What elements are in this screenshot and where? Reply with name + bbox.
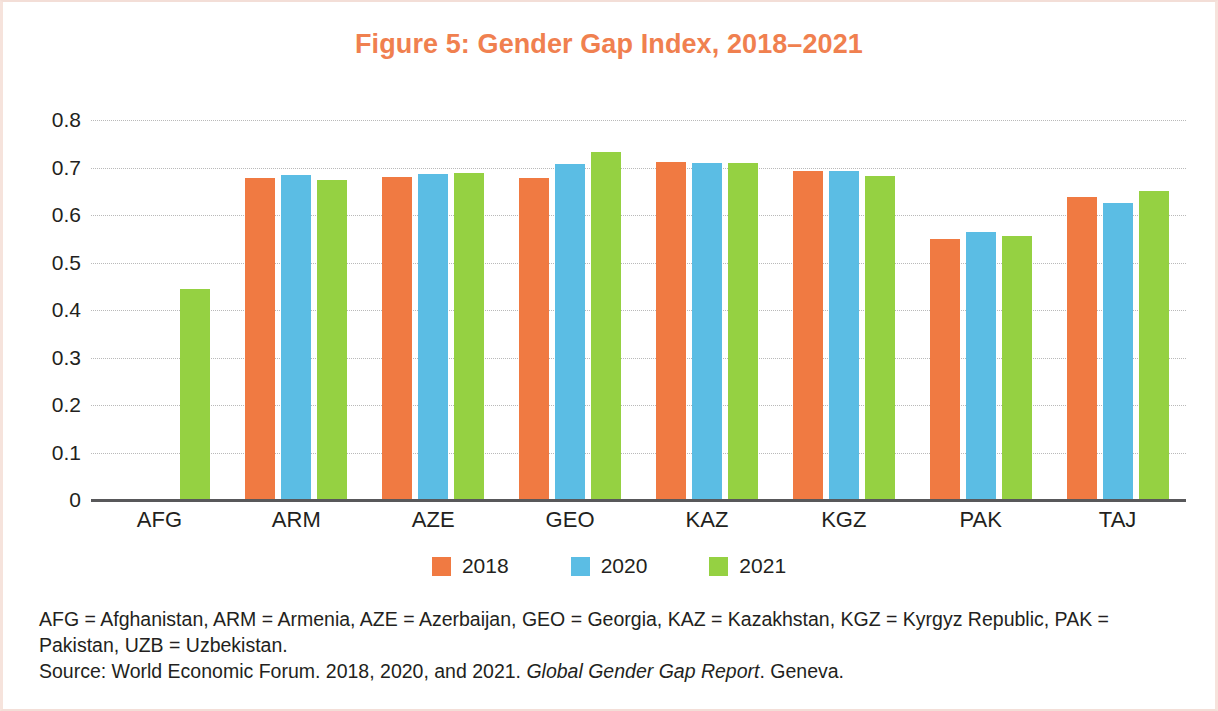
bar-kaz-2020 <box>692 163 722 500</box>
y-axis-tick-label: 0.1 <box>21 441 81 465</box>
x-axis-label-aze: AZE <box>412 507 455 533</box>
x-axis-labels: AFGARMAZEGEOKAZKGZPAKTAJ <box>91 507 1186 541</box>
bar-aze-2020 <box>418 174 448 500</box>
y-axis-tick-label: 0 <box>21 488 81 512</box>
bar-taj-2018 <box>1067 197 1097 500</box>
bar-pak-2018 <box>930 239 960 500</box>
bar-kaz-2018 <box>656 162 686 500</box>
figure-page: Figure 5: Gender Gap Index, 2018–2021 00… <box>0 0 1218 711</box>
bar-kgz-2021 <box>865 176 895 500</box>
bar-kaz-2021 <box>728 163 758 500</box>
legend-label: 2018 <box>462 554 509 578</box>
y-axis-tick-label: 0.7 <box>21 156 81 180</box>
y-axis-tick-label: 0.3 <box>21 346 81 370</box>
bar-group <box>382 120 484 500</box>
bar-group <box>108 120 210 500</box>
legend-swatch-icon <box>571 557 590 576</box>
bar-aze-2021 <box>454 173 484 500</box>
bar-group <box>793 120 895 500</box>
bar-kgz-2020 <box>829 171 859 500</box>
bar-taj-2020 <box>1103 203 1133 500</box>
legend-item-2020: 2020 <box>571 554 648 578</box>
bar-group <box>519 120 621 500</box>
y-axis-tick-label: 0.8 <box>21 108 81 132</box>
bar-aze-2018 <box>382 177 412 500</box>
bar-afg-2021 <box>180 289 210 500</box>
x-axis-label-taj: TAJ <box>1099 507 1136 533</box>
x-axis-label-kgz: KGZ <box>821 507 866 533</box>
x-axis-label-geo: GEO <box>546 507 595 533</box>
x-axis-label-afg: AFG <box>137 507 182 533</box>
x-axis-line <box>91 499 1186 502</box>
bar-group <box>245 120 347 500</box>
y-axis-tick-label: 0.6 <box>21 203 81 227</box>
y-axis: 00.10.20.30.40.50.60.70.8 <box>17 120 81 500</box>
abbreviation-note: AFG = Afghanistan, ARM = Armenia, AZE = … <box>39 606 1185 658</box>
x-axis-label-arm: ARM <box>272 507 321 533</box>
legend-swatch-icon <box>709 557 728 576</box>
bar-geo-2020 <box>555 164 585 500</box>
bar-taj-2021 <box>1139 191 1169 500</box>
y-axis-tick-label: 0.4 <box>21 298 81 322</box>
y-axis-tick-label: 0.5 <box>21 251 81 275</box>
legend-item-2018: 2018 <box>432 554 509 578</box>
bar-arm-2021 <box>317 180 347 500</box>
source-note: Source: World Economic Forum. 2018, 2020… <box>39 658 1185 684</box>
bar-group <box>930 120 1032 500</box>
bar-group <box>1067 120 1169 500</box>
source-prefix: Source: World Economic Forum. 2018, 2020… <box>39 660 526 682</box>
bar-arm-2020 <box>281 175 311 500</box>
y-axis-tick-label: 0.2 <box>21 393 81 417</box>
legend-label: 2021 <box>739 554 786 578</box>
figure-footnotes: AFG = Afghanistan, ARM = Armenia, AZE = … <box>39 606 1185 684</box>
chart-legend: 201820202021 <box>3 554 1215 578</box>
bar-pak-2020 <box>966 232 996 500</box>
source-report-title: Global Gender Gap Report <box>526 660 759 682</box>
x-axis-label-pak: PAK <box>959 507 1001 533</box>
source-suffix: . Geneva. <box>759 660 844 682</box>
bar-pak-2021 <box>1002 236 1032 500</box>
bar-geo-2021 <box>591 152 621 500</box>
legend-label: 2020 <box>601 554 648 578</box>
bar-arm-2018 <box>245 178 275 500</box>
bar-group <box>656 120 758 500</box>
bar-geo-2018 <box>519 178 549 500</box>
legend-swatch-icon <box>432 557 451 576</box>
page-title: Figure 5: Gender Gap Index, 2018–2021 <box>3 29 1215 60</box>
legend-item-2021: 2021 <box>709 554 786 578</box>
x-axis-label-kaz: KAZ <box>686 507 729 533</box>
plot-area <box>91 120 1186 500</box>
bar-kgz-2018 <box>793 171 823 500</box>
